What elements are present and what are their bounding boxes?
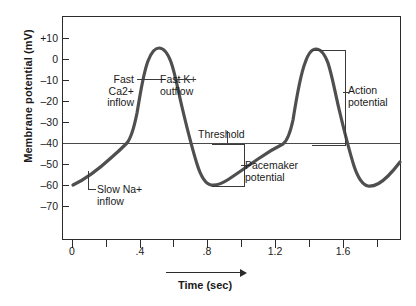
leader-line-slow-na-horizontal (88, 189, 96, 190)
figure-canvas: Membrane potential (mV) +10 0 –10 –20 –3… (0, 0, 416, 306)
leader-line-action (343, 92, 349, 93)
annotation-pacemaker-line2: potential (245, 172, 298, 184)
annotation-threshold: Threshold (198, 129, 245, 141)
annotation-fast-k-line2: outflow (160, 86, 196, 98)
annotation-fast-ca-line3: inflow (88, 97, 134, 109)
leader-line-fast-ca (137, 79, 162, 80)
leader-line-fast-k (176, 79, 196, 80)
annotation-pacemaker-potential: Pacemaker potential (245, 160, 298, 183)
annotation-slow-na-line1: Slow Na+ (97, 184, 142, 196)
annotation-fast-ca-inflow: Fast Ca2+ inflow (88, 74, 134, 109)
annotation-pacemaker-line1: Pacemaker (245, 160, 298, 172)
annotation-action-line1: Action (348, 85, 388, 97)
leader-line-slow-na-vertical (88, 171, 89, 189)
bracket-action-potential (312, 50, 346, 146)
leader-line-threshold (227, 131, 228, 143)
annotation-slow-na-line2: inflow (97, 196, 142, 208)
membrane-potential-trace (0, 0, 416, 306)
annotation-fast-ca-line1: Fast (88, 74, 134, 86)
annotation-action-potential: Action potential (348, 85, 388, 108)
leader-line-pacemaker (241, 165, 247, 166)
annotation-slow-na-inflow: Slow Na+ inflow (97, 184, 142, 207)
annotation-action-line2: potential (348, 97, 388, 109)
annotation-fast-k-outflow: Fast K+ outflow (160, 74, 196, 97)
